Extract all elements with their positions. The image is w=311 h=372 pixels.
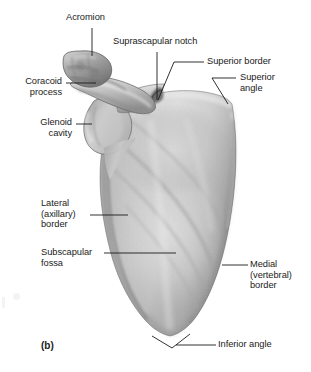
scan-artifact: [13, 293, 20, 300]
label-lateral-border: Lateral(axillary)border: [41, 198, 76, 230]
label-glenoid-cavity: Glenoidcavity: [0, 117, 72, 138]
label-superior-border: Superior border: [207, 56, 271, 67]
label-coracoid-process: Coracoidprocess: [0, 76, 62, 97]
label-superior-angle: Superiorangle: [240, 72, 275, 93]
panel-label: (b): [41, 340, 54, 351]
label-acromion: Acromion: [66, 12, 105, 23]
label-inferior-angle: Inferior angle: [218, 339, 272, 350]
label-subscapular-fossa: Subscapularfossa: [41, 247, 92, 268]
label-suprascapular-notch: Suprascapular notch: [113, 36, 197, 47]
label-medial-border: Medial(vertebral)border: [250, 259, 292, 291]
scan-artifact: [2, 297, 5, 308]
